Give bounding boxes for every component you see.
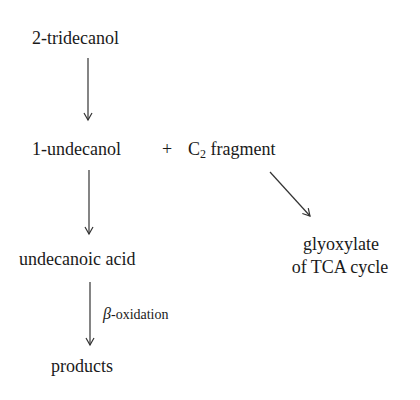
node-glyoxylate-line1: glyoxylate — [303, 235, 379, 253]
node-2-tridecanol: 2-tridecanol — [32, 29, 119, 47]
c2-prefix: C — [188, 139, 200, 159]
node-c2-fragment: C2 fragment — [188, 140, 275, 158]
edge-label-beta-oxidation: β-oxidation — [103, 306, 169, 322]
plus-sign: + — [162, 140, 172, 158]
beta-oxidation-text: -oxidation — [111, 307, 169, 322]
arrow-c2-to-glyoxylate — [270, 172, 310, 216]
c2-suffix: fragment — [206, 139, 275, 159]
node-1-undecanol: 1-undecanol — [32, 140, 121, 158]
node-undecanoic-acid: undecanoic acid — [19, 250, 135, 268]
node-glyoxylate-line2: of TCA cycle — [292, 258, 389, 276]
node-products: products — [51, 357, 113, 375]
pathway-arrows — [0, 0, 420, 400]
beta-symbol: β — [103, 305, 111, 322]
